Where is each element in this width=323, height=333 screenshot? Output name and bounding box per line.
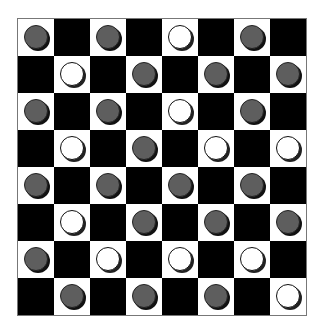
white-checker-piece[interactable] — [60, 62, 84, 86]
gray-checker-piece[interactable] — [240, 25, 264, 49]
board-square-r2c4[interactable] — [162, 93, 198, 130]
white-checker-piece[interactable] — [168, 247, 192, 271]
board-square-r7c2[interactable] — [90, 278, 126, 315]
board-square-r3c6[interactable] — [234, 130, 270, 167]
gray-checker-piece[interactable] — [96, 25, 120, 49]
gray-checker-piece[interactable] — [276, 210, 300, 234]
board-square-r7c3[interactable] — [126, 278, 162, 315]
white-checker-piece[interactable] — [240, 247, 264, 271]
board-square-r4c1[interactable] — [54, 167, 90, 204]
board-square-r3c1[interactable] — [54, 130, 90, 167]
board-square-r6c4[interactable] — [162, 241, 198, 278]
board-square-r0c1[interactable] — [54, 19, 90, 56]
board-square-r2c7[interactable] — [270, 93, 306, 130]
white-checker-piece[interactable] — [276, 284, 300, 308]
board-square-r7c0[interactable] — [18, 278, 54, 315]
gray-checker-piece[interactable] — [24, 25, 48, 49]
board-square-r6c2[interactable] — [90, 241, 126, 278]
board-square-r1c3[interactable] — [126, 56, 162, 93]
gray-checker-piece[interactable] — [240, 99, 264, 123]
board-square-r6c0[interactable] — [18, 241, 54, 278]
board-square-r1c1[interactable] — [54, 56, 90, 93]
board-square-r7c4[interactable] — [162, 278, 198, 315]
board-square-r4c0[interactable] — [18, 167, 54, 204]
board-square-r4c5[interactable] — [198, 167, 234, 204]
gray-checker-piece[interactable] — [24, 99, 48, 123]
board-square-r5c3[interactable] — [126, 204, 162, 241]
board-square-r1c4[interactable] — [162, 56, 198, 93]
board-square-r2c6[interactable] — [234, 93, 270, 130]
board-square-r1c2[interactable] — [90, 56, 126, 93]
board-square-r7c5[interactable] — [198, 278, 234, 315]
gray-checker-piece[interactable] — [132, 136, 156, 160]
board-square-r3c4[interactable] — [162, 130, 198, 167]
white-checker-piece[interactable] — [276, 136, 300, 160]
board-square-r2c0[interactable] — [18, 93, 54, 130]
board-square-r6c7[interactable] — [270, 241, 306, 278]
gray-checker-piece[interactable] — [132, 284, 156, 308]
board-square-r5c5[interactable] — [198, 204, 234, 241]
board-square-r2c1[interactable] — [54, 93, 90, 130]
board-square-r2c2[interactable] — [90, 93, 126, 130]
board-square-r0c5[interactable] — [198, 19, 234, 56]
board-square-r0c4[interactable] — [162, 19, 198, 56]
board-square-r2c5[interactable] — [198, 93, 234, 130]
gray-checker-piece[interactable] — [96, 99, 120, 123]
board-square-r0c2[interactable] — [90, 19, 126, 56]
gray-checker-piece[interactable] — [132, 62, 156, 86]
white-checker-piece[interactable] — [204, 136, 228, 160]
white-checker-piece[interactable] — [60, 136, 84, 160]
board-square-r0c0[interactable] — [18, 19, 54, 56]
board-square-r5c4[interactable] — [162, 204, 198, 241]
board-square-r5c7[interactable] — [270, 204, 306, 241]
gray-checker-piece[interactable] — [132, 210, 156, 234]
board-square-r7c1[interactable] — [54, 278, 90, 315]
board-square-r6c6[interactable] — [234, 241, 270, 278]
board-square-r7c6[interactable] — [234, 278, 270, 315]
board-square-r0c3[interactable] — [126, 19, 162, 56]
board-square-r3c0[interactable] — [18, 130, 54, 167]
board-square-r4c2[interactable] — [90, 167, 126, 204]
board-square-r7c7[interactable] — [270, 278, 306, 315]
board-square-r5c6[interactable] — [234, 204, 270, 241]
board-square-r1c0[interactable] — [18, 56, 54, 93]
board-square-r4c3[interactable] — [126, 167, 162, 204]
board-square-r4c4[interactable] — [162, 167, 198, 204]
gray-checker-piece[interactable] — [96, 173, 120, 197]
white-checker-piece[interactable] — [60, 210, 84, 234]
board-square-r4c7[interactable] — [270, 167, 306, 204]
board-square-r4c6[interactable] — [234, 167, 270, 204]
board-square-r5c0[interactable] — [18, 204, 54, 241]
board-square-r3c2[interactable] — [90, 130, 126, 167]
board-square-r3c7[interactable] — [270, 130, 306, 167]
board-square-r1c7[interactable] — [270, 56, 306, 93]
board-square-r5c1[interactable] — [54, 204, 90, 241]
gray-checker-piece[interactable] — [204, 210, 228, 234]
board-square-r6c3[interactable] — [126, 241, 162, 278]
gray-checker-piece[interactable] — [168, 173, 192, 197]
white-checker-piece[interactable] — [168, 25, 192, 49]
gray-checker-piece[interactable] — [204, 284, 228, 308]
white-checker-piece[interactable] — [168, 99, 192, 123]
gray-checker-piece[interactable] — [204, 62, 228, 86]
gray-checker-piece[interactable] — [60, 284, 84, 308]
board-square-r1c6[interactable] — [234, 56, 270, 93]
white-checker-piece[interactable] — [96, 247, 120, 271]
checkers-board — [17, 18, 307, 316]
board-square-r3c5[interactable] — [198, 130, 234, 167]
board-square-r0c7[interactable] — [270, 19, 306, 56]
board-square-r6c5[interactable] — [198, 241, 234, 278]
board-square-r0c6[interactable] — [234, 19, 270, 56]
board-square-r6c1[interactable] — [54, 241, 90, 278]
gray-checker-piece[interactable] — [24, 173, 48, 197]
board-square-r5c2[interactable] — [90, 204, 126, 241]
gray-checker-piece[interactable] — [240, 173, 264, 197]
board-square-r3c3[interactable] — [126, 130, 162, 167]
gray-checker-piece[interactable] — [276, 62, 300, 86]
board-square-r1c5[interactable] — [198, 56, 234, 93]
gray-checker-piece[interactable] — [24, 247, 48, 271]
board-square-r2c3[interactable] — [126, 93, 162, 130]
